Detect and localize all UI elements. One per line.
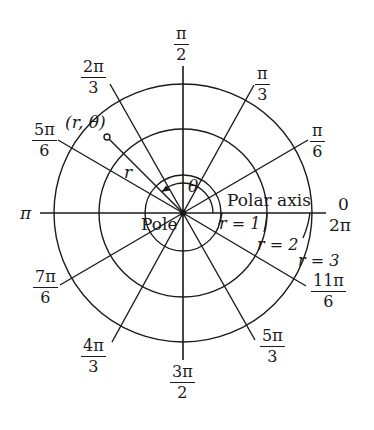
label-pi-over-2: π 2 [174,26,189,63]
r3-leader [303,213,310,238]
label-theta: θ [188,178,198,195]
polar-diagram: π 2 2π 3 π 3 5π 6 π 6 7π 6 11π 6 4π 3 5π… [0,0,374,430]
label-r3: r = 3 [298,253,339,269]
ray-2pi-3 [110,84,183,213]
label-zero: 0 [338,196,349,213]
label-r1: r = 1 [219,216,260,232]
label-2pi-over-3: 2π 3 [81,59,106,96]
pole-dot-icon [180,210,186,216]
label-pi-over-6: π 6 [310,123,325,160]
label-two-pi: 2π [329,217,351,234]
label-pi-over-3: π 3 [255,66,270,103]
label-11pi-over-6: 11π 6 [311,273,346,310]
label-polar-axis: Polar axis [227,192,311,209]
label-pi: π [20,205,31,222]
label-r2: r = 2 [257,237,298,253]
label-5pi-over-3: 5π 3 [260,328,285,365]
label-4pi-over-3: 4π 3 [81,338,106,375]
label-5pi-over-6: 5π 6 [32,122,57,159]
label-3pi-over-2: 3π 2 [170,364,195,401]
label-r: r [124,164,132,181]
label-7pi-over-6: 7π 6 [33,269,58,306]
label-point: (r, θ) [65,114,106,131]
point-marker-icon [104,134,110,140]
label-pole: Pole [141,216,177,233]
